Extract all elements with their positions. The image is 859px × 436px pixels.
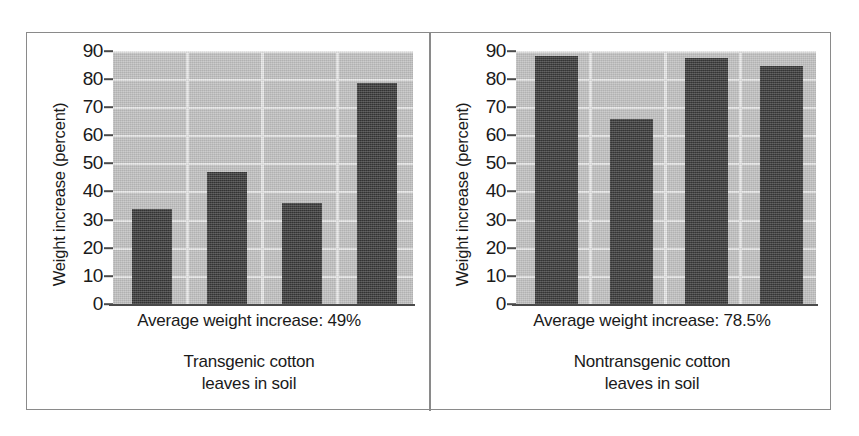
y-tick-label-80: 80 bbox=[57, 68, 103, 90]
y-tick-mark-60 bbox=[104, 134, 113, 136]
average-weight-increase-right: Average weight increase: 78.5% bbox=[480, 311, 824, 331]
bar-left-4 bbox=[357, 83, 397, 304]
y-tick-label-10: 10 bbox=[57, 265, 103, 287]
y-tick-label-50: 50 bbox=[57, 152, 103, 174]
x-axis-line-left bbox=[109, 304, 415, 306]
gridline-vertical-2 bbox=[261, 51, 264, 304]
y-tick-mark-80 bbox=[104, 78, 113, 80]
gridline-vertical-3 bbox=[739, 51, 742, 304]
x-axis-line-right bbox=[512, 304, 818, 306]
gridline-vertical-2 bbox=[664, 51, 667, 304]
bar-right-4 bbox=[760, 66, 803, 304]
bar-left-3 bbox=[282, 203, 322, 304]
y-tick-mark-90 bbox=[507, 50, 516, 52]
y-tick-mark-30 bbox=[104, 219, 113, 221]
average-weight-increase-left: Average weight increase: 49% bbox=[77, 311, 421, 331]
bar-right-2 bbox=[610, 119, 653, 304]
y-tick-mark-20 bbox=[104, 247, 113, 249]
bar-left-2 bbox=[207, 172, 247, 304]
plot-area-transgenic bbox=[113, 51, 413, 304]
chart-panel-nontransgenic: Weight increase (percent) 90 80 70 60 50… bbox=[430, 33, 832, 411]
y-tick-label-40: 40 bbox=[57, 180, 103, 202]
y-tick-mark-20 bbox=[507, 247, 516, 249]
plot-area-nontransgenic bbox=[516, 51, 816, 304]
y-tick-label-70: 70 bbox=[460, 96, 506, 118]
y-tick-label-40: 40 bbox=[460, 180, 506, 202]
gridline-vertical-1 bbox=[589, 51, 592, 304]
y-tick-mark-80 bbox=[507, 78, 516, 80]
figure-frame: Weight increase (percent) 90 80 70 60 50… bbox=[26, 32, 831, 410]
y-tick-label-90: 90 bbox=[460, 40, 506, 62]
y-tick-label-60: 60 bbox=[57, 124, 103, 146]
group-label-left: Transgenic cotton leaves in soil bbox=[77, 351, 421, 395]
y-tick-label-10: 10 bbox=[460, 265, 506, 287]
y-tick-mark-30 bbox=[507, 219, 516, 221]
y-tick-label-20: 20 bbox=[460, 237, 506, 259]
group-label-right-line1: Nontransgenic cotton bbox=[480, 351, 824, 373]
bar-left-1 bbox=[132, 209, 172, 304]
group-label-right-line2: leaves in soil bbox=[480, 373, 824, 395]
y-tick-label-80: 80 bbox=[460, 68, 506, 90]
y-tick-mark-40 bbox=[104, 190, 113, 192]
y-tick-label-20: 20 bbox=[57, 237, 103, 259]
y-tick-mark-50 bbox=[104, 162, 113, 164]
y-tick-label-50: 50 bbox=[460, 152, 506, 174]
chart-panel-transgenic: Weight increase (percent) 90 80 70 60 50… bbox=[27, 33, 429, 411]
y-tick-label-30: 30 bbox=[460, 209, 506, 231]
y-tick-mark-70 bbox=[507, 106, 516, 108]
y-tick-mark-10 bbox=[507, 275, 516, 277]
y-tick-mark-70 bbox=[104, 106, 113, 108]
bar-right-3 bbox=[685, 58, 728, 304]
bar-right-1 bbox=[535, 56, 578, 304]
group-label-left-line1: Transgenic cotton bbox=[77, 351, 421, 373]
group-label-left-line2: leaves in soil bbox=[77, 373, 421, 395]
y-tick-mark-60 bbox=[507, 134, 516, 136]
gridline-vertical-1 bbox=[186, 51, 189, 304]
y-tick-mark-50 bbox=[507, 162, 516, 164]
y-tick-mark-90 bbox=[104, 50, 113, 52]
group-label-right: Nontransgenic cotton leaves in soil bbox=[480, 351, 824, 395]
y-tick-label-60: 60 bbox=[460, 124, 506, 146]
gridline-vertical-3 bbox=[336, 51, 339, 304]
y-tick-mark-40 bbox=[507, 190, 516, 192]
y-tick-label-90: 90 bbox=[57, 40, 103, 62]
y-tick-label-30: 30 bbox=[57, 209, 103, 231]
y-tick-label-70: 70 bbox=[57, 96, 103, 118]
y-tick-mark-10 bbox=[104, 275, 113, 277]
figure-canvas: Weight increase (percent) 90 80 70 60 50… bbox=[0, 0, 859, 436]
